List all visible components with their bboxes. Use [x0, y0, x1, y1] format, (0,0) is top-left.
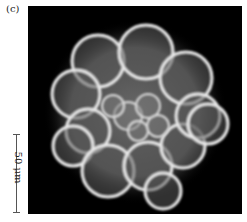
- panel-label: (c): [6, 3, 19, 14]
- micrograph: [28, 6, 242, 214]
- cell-cluster-image: [28, 6, 242, 214]
- scale-bar-label: 50 μm: [13, 148, 24, 188]
